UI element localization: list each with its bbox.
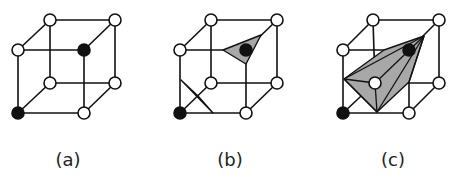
cube-edges <box>18 20 115 113</box>
vertex-empty <box>12 44 24 56</box>
vertex-filled <box>12 107 24 119</box>
vertex-empty <box>109 77 121 89</box>
vertex-empty <box>271 14 283 26</box>
panel-label-a: (a) <box>55 149 80 170</box>
vertex-empty <box>433 14 445 26</box>
vertex-filled <box>403 44 415 56</box>
vertex-empty <box>240 107 252 119</box>
cube-edges <box>180 20 277 113</box>
vertex-empty <box>271 77 283 89</box>
vertex-empty <box>174 44 186 56</box>
panel-c: (c) <box>337 14 445 170</box>
vertex-empty <box>44 77 56 89</box>
vertex-empty <box>205 77 217 89</box>
vertex-filled <box>240 44 252 56</box>
vertex-empty <box>205 14 217 26</box>
panel-label-b: (b) <box>217 149 242 170</box>
vertex-empty <box>109 14 121 26</box>
panel-label-c: (c) <box>381 149 405 170</box>
vertex-empty <box>44 14 56 26</box>
panel-a: (a) <box>12 14 121 170</box>
vertex-empty <box>403 107 415 119</box>
vertex-empty <box>78 107 90 119</box>
vertex-filled <box>337 107 349 119</box>
vertex-filled <box>174 107 186 119</box>
vertex-empty <box>367 14 379 26</box>
vertex-empty <box>337 44 349 56</box>
vertex-filled <box>78 44 90 56</box>
vertex-empty <box>369 77 381 89</box>
vertex-empty <box>433 77 445 89</box>
panel-b: (b) <box>174 14 283 170</box>
cube-figure: (a) (b) <box>0 0 458 178</box>
